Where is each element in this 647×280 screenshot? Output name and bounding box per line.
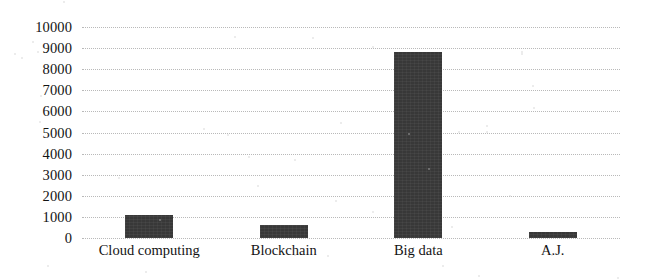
y-axis-tick-label: 8000: [0, 62, 72, 77]
y-axis-tick-label: 5000: [0, 125, 72, 140]
bar: [260, 225, 308, 238]
bar-chart: 1000090008000700060005000400030002000100…: [0, 0, 647, 280]
bar: [529, 232, 577, 238]
scan-speck: [617, 277, 619, 279]
y-axis-tick-label: 9000: [0, 41, 72, 56]
x-axis-tick-label: Blockchain: [251, 243, 317, 259]
y-axis-tick-label: 1000: [0, 210, 72, 225]
y-axis-tick-label: 10000: [0, 20, 72, 35]
bar: [125, 215, 173, 238]
x-axis-tick-label: Big data: [394, 243, 443, 259]
y-axis-tick-label: 2000: [0, 189, 72, 204]
y-axis-tick-label: 3000: [0, 167, 72, 182]
x-axis-tick-label: Cloud computing: [99, 243, 200, 259]
y-axis-tick-label: 0: [0, 231, 72, 246]
gridline: [82, 238, 620, 239]
x-axis-tick-label: A.J.: [541, 243, 564, 259]
bars: [82, 27, 620, 238]
plot-area: [82, 27, 620, 238]
scan-speck: [478, 275, 480, 277]
y-axis-tick-label: 7000: [0, 83, 72, 98]
bar: [394, 52, 442, 238]
y-axis-tick-label: 6000: [0, 104, 72, 119]
y-axis: 1000090008000700060005000400030002000100…: [0, 0, 76, 280]
x-axis: Cloud computingBlockchainBig dataA.J.: [82, 243, 620, 273]
y-axis-tick-label: 4000: [0, 146, 72, 161]
